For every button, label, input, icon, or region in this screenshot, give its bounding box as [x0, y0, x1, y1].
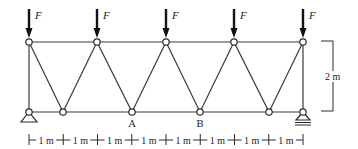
top-node [94, 39, 100, 45]
load-label: F [239, 9, 247, 21]
load-label: F [308, 9, 316, 21]
bottom-node [60, 109, 66, 115]
height-dimension: 2 m [321, 41, 341, 111]
span-label: 1 m [141, 135, 157, 146]
diagonal-member [63, 42, 97, 112]
node-label-b: B [196, 118, 203, 129]
height-label: 2 m [325, 71, 341, 82]
top-node [300, 39, 306, 45]
span-label: 1 m [38, 135, 54, 146]
span-dimension: 1 m1 m1 m1 m1 m1 m1 m1 m [29, 134, 303, 146]
bottom-node [300, 109, 306, 115]
load-arrow-icon: F [26, 9, 43, 38]
truss-diagram: FFFFF AB 2 m 1 m1 m1 m1 m1 m1 m1 m1 m [0, 0, 358, 149]
span-label: 1 m [278, 135, 294, 146]
span-label: 1 m [73, 135, 89, 146]
diagonal-member [166, 42, 200, 112]
span-label: 1 m [210, 135, 226, 146]
load-arrow-icon: F [231, 9, 248, 38]
diagonal-member [132, 42, 166, 112]
load-arrow-icon: F [300, 9, 317, 38]
bottom-node [197, 109, 203, 115]
load-label: F [102, 9, 110, 21]
bottom-node [266, 109, 272, 115]
diagonal-member [200, 42, 234, 112]
diagonal-member [234, 42, 269, 112]
span-label: 1 m [175, 135, 191, 146]
truss-nodes [26, 39, 306, 115]
load-label: F [171, 9, 179, 21]
span-label: 1 m [244, 135, 260, 146]
load-arrow-icon: F [94, 9, 111, 38]
top-node [231, 39, 237, 45]
load-arrow-icon: F [163, 9, 180, 38]
bottom-node [26, 109, 32, 115]
diagonal-member [29, 42, 63, 112]
top-node [163, 39, 169, 45]
load-label: F [34, 9, 42, 21]
node-labels: AB [127, 118, 203, 129]
load-arrows: FFFFF [26, 9, 317, 38]
diagonal-member [97, 42, 132, 112]
bottom-node [129, 109, 135, 115]
diagonal-member [269, 42, 303, 112]
top-node [26, 39, 32, 45]
span-label: 1 m [107, 135, 123, 146]
truss-members [29, 42, 303, 112]
node-label-a: A [127, 118, 136, 129]
